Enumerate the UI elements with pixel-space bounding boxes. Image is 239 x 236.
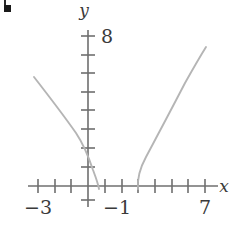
x-tick-label-7: 7 <box>199 196 211 218</box>
x-tick-label--3: −3 <box>24 196 52 218</box>
coordinate-plot-svg: y x 8 −3 −1 7 <box>0 0 239 236</box>
list-marker-dot <box>4 5 11 12</box>
y-tick-label-8: 8 <box>101 25 113 47</box>
y-axis-label: y <box>78 0 89 20</box>
x-tick-label--1: −1 <box>103 196 131 218</box>
curve-left-branch <box>34 77 99 189</box>
plot-figure: y x 8 −3 −1 7 <box>0 0 239 236</box>
x-axis-label: x <box>219 176 229 196</box>
curve-right-branch <box>138 47 206 189</box>
